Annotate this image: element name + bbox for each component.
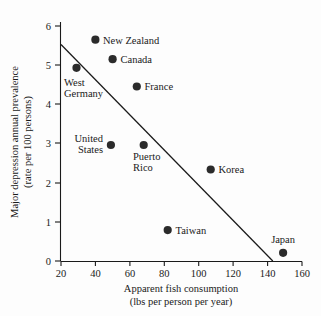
y-axis-ticks xyxy=(55,26,61,261)
y-tick-label-4: 4 xyxy=(46,99,52,110)
scatter-plot-figure: 6 5 4 3 2 1 0 20 4 xyxy=(0,0,321,316)
x-tick-label-60: 60 xyxy=(125,268,136,279)
x-axis-tick-labels: 20 40 60 80 100 120 140 160 xyxy=(56,268,310,279)
data-label-united-states-line2: States xyxy=(78,144,103,155)
x-axis-subtitle: (lbs per person per year) xyxy=(130,296,233,308)
x-tick-label-120: 120 xyxy=(225,268,241,279)
y-axis-title: Major depression annual prevalence xyxy=(9,66,20,218)
y-tick-label-0: 0 xyxy=(46,256,51,267)
data-label-canada: Canada xyxy=(121,54,153,65)
y-axis-tick-labels: 6 5 4 3 2 1 0 xyxy=(46,21,52,267)
data-point-korea[interactable] xyxy=(207,165,215,173)
x-tick-label-140: 140 xyxy=(260,268,276,279)
data-point-taiwan[interactable] xyxy=(164,226,172,234)
data-point-japan[interactable] xyxy=(279,249,287,257)
data-points-group xyxy=(72,36,287,257)
data-point-canada[interactable] xyxy=(109,55,117,63)
y-tick-label-5: 5 xyxy=(46,60,51,71)
data-label-korea: Korea xyxy=(219,164,245,175)
x-tick-label-100: 100 xyxy=(191,268,207,279)
data-point-west-germany[interactable] xyxy=(72,64,80,72)
data-label-west-germany-line2: Germany xyxy=(64,88,104,99)
y-tick-label-6: 6 xyxy=(46,21,51,32)
data-point-france[interactable] xyxy=(133,82,141,90)
x-axis-title: Apparent fish consumption xyxy=(124,283,239,294)
data-label-taiwan: Taiwan xyxy=(176,225,208,236)
data-point-puerto-rico[interactable] xyxy=(140,141,148,149)
data-point-united-states[interactable] xyxy=(107,141,115,149)
data-label-france: France xyxy=(145,81,174,92)
y-tick-label-1: 1 xyxy=(46,217,51,228)
data-label-west-germany-line1: West xyxy=(64,77,85,88)
data-label-japan: Japan xyxy=(271,234,296,245)
data-label-united-states: United xyxy=(74,133,103,144)
x-tick-label-160: 160 xyxy=(294,268,310,279)
plot-canvas: 6 5 4 3 2 1 0 20 4 xyxy=(0,0,321,316)
x-tick-label-20: 20 xyxy=(56,268,67,279)
y-axis-title-group: Major depression annual prevalence (rate… xyxy=(9,66,34,218)
x-tick-label-80: 80 xyxy=(159,268,170,279)
x-axis-title-group: Apparent fish consumption (lbs per perso… xyxy=(124,283,239,308)
data-label-puerto-rico: Puerto xyxy=(133,151,160,162)
data-label-new-zealand: New Zealand xyxy=(103,35,160,46)
x-axis-group: 20 40 60 80 100 120 140 160 xyxy=(56,262,310,280)
x-axis-ticks xyxy=(61,262,302,267)
y-axis-subtitle: (rate per 100 persons) xyxy=(22,96,34,188)
data-label-puerto-rico-line2: Rico xyxy=(133,162,153,173)
data-point-new-zealand[interactable] xyxy=(91,36,99,44)
x-tick-label-40: 40 xyxy=(90,268,101,279)
y-tick-label-3: 3 xyxy=(46,138,51,149)
y-tick-label-2: 2 xyxy=(46,178,51,189)
data-point-labels-group: New Zealand Canada West France United Pu… xyxy=(64,35,296,246)
y-axis-group: 6 5 4 3 2 1 0 xyxy=(46,21,61,267)
